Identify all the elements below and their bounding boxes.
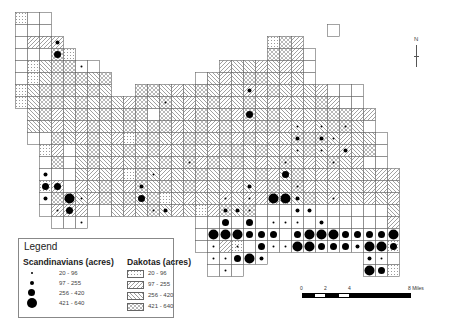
scandinavian-dot <box>318 243 325 250</box>
scandinavian-dot <box>246 219 253 226</box>
section-cell <box>196 217 208 229</box>
section-cell <box>328 25 340 37</box>
section-cell <box>328 205 340 217</box>
scale-seg-5 <box>350 293 411 298</box>
section-cell <box>316 109 328 121</box>
section-cell <box>292 61 304 73</box>
section-cell <box>364 121 376 133</box>
legend-dak-4: 421 - 640 <box>148 303 173 309</box>
section-cell <box>280 73 292 85</box>
section-cell <box>40 121 52 133</box>
scandinavian-dot <box>308 209 312 213</box>
section-cell <box>100 193 112 205</box>
section-cell <box>196 181 208 193</box>
section-cell <box>76 157 88 169</box>
section-cell <box>244 169 256 181</box>
section-cell <box>88 97 100 109</box>
section-cell <box>184 145 196 157</box>
scandinavian-dot <box>329 230 339 240</box>
section-cell <box>256 97 268 109</box>
section-cell <box>304 85 316 97</box>
section-cell <box>292 85 304 97</box>
scandinavian-dot <box>285 162 287 164</box>
section-cell <box>352 181 364 193</box>
section-cell <box>280 97 292 109</box>
section-cell <box>196 169 208 181</box>
section-cell <box>220 73 232 85</box>
section-cell <box>40 49 52 61</box>
section-cell <box>352 169 364 181</box>
section-cell <box>148 109 160 121</box>
section-cell <box>64 73 76 85</box>
north-arrow-tick <box>414 56 419 57</box>
section-cell <box>172 157 184 169</box>
section-cell <box>256 61 268 73</box>
scandinavian-dot <box>390 243 397 250</box>
scandinavian-dot <box>297 186 299 188</box>
section-cell <box>76 181 88 193</box>
section-cell <box>136 157 148 169</box>
section-cell <box>64 49 76 61</box>
section-cell <box>316 181 328 193</box>
section-cell <box>304 133 316 145</box>
section-cell <box>220 241 232 253</box>
section-cell <box>208 85 220 97</box>
scandinavian-dot <box>138 195 145 202</box>
section-cell <box>16 85 28 97</box>
section-cell <box>112 157 124 169</box>
section-cell <box>304 169 316 181</box>
scandinavian-dot <box>269 194 279 204</box>
section-cell <box>148 145 160 157</box>
section-cell <box>172 121 184 133</box>
scandinavian-dot <box>345 126 347 128</box>
dot-size-3-icon <box>28 289 35 296</box>
scale-tick-0: 0 <box>300 285 303 291</box>
section-cell <box>148 97 160 109</box>
section-cell <box>232 61 244 73</box>
scandinavian-dot <box>333 162 335 164</box>
section-cell <box>208 133 220 145</box>
section-cell <box>232 169 244 181</box>
section-cell <box>232 85 244 97</box>
section-cell <box>148 181 160 193</box>
section-cell <box>40 97 52 109</box>
section-cell <box>76 205 88 217</box>
section-cell <box>52 169 64 181</box>
section-cell <box>208 121 220 133</box>
section-cell <box>196 109 208 121</box>
section-cell <box>340 85 352 97</box>
section-cell <box>220 97 232 109</box>
section-cell <box>64 85 76 97</box>
scandinavian-dot <box>248 185 252 189</box>
section-cell <box>208 73 220 85</box>
section-cell <box>304 73 316 85</box>
section-cell <box>244 133 256 145</box>
section-cell <box>208 169 220 181</box>
section-cell <box>136 133 148 145</box>
section-cell <box>16 25 28 37</box>
section-cell <box>328 109 340 121</box>
section-cell <box>88 169 100 181</box>
scandinavian-dot <box>42 183 49 190</box>
scandinavian-dot <box>368 257 372 261</box>
scale-tick-4: 4 <box>348 285 351 291</box>
section-cell <box>52 85 64 97</box>
scandinavian-dot <box>209 230 219 240</box>
section-cell <box>340 181 352 193</box>
scandinavian-dot <box>354 231 361 238</box>
section-cell <box>148 157 160 169</box>
section-cell <box>100 181 112 193</box>
section-cell <box>184 193 196 205</box>
scandinavian-dot <box>320 137 324 141</box>
scandinavian-dot <box>54 51 61 58</box>
section-cell <box>112 205 124 217</box>
section-cell <box>16 13 28 25</box>
section-cell <box>100 145 112 157</box>
section-cell <box>76 97 88 109</box>
section-cell <box>280 133 292 145</box>
scandinavian-dot <box>273 222 275 224</box>
section-cell <box>124 181 136 193</box>
section-cell <box>364 205 376 217</box>
section-cell <box>328 97 340 109</box>
section-cell <box>100 169 112 181</box>
